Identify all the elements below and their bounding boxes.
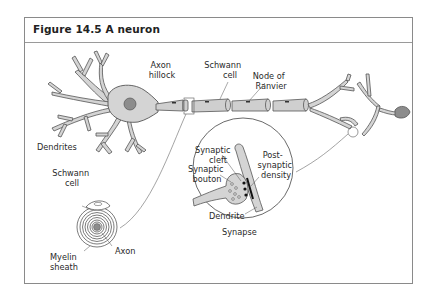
label-axon: Axon bbox=[115, 246, 135, 256]
label-synaptic-bouton: Synaptic bouton bbox=[188, 164, 226, 184]
neuron-diagram: Axon hillock Schwann cell Node of Ranvie… bbox=[0, 0, 431, 293]
axon-core bbox=[94, 224, 101, 231]
label-dendrite: Dendrite bbox=[209, 211, 245, 221]
label-synapse: Synapse bbox=[222, 227, 257, 237]
label-myelin-sheath: Myelin sheath bbox=[50, 252, 79, 272]
postsynaptic-cell bbox=[395, 106, 410, 118]
axon-segments bbox=[156, 99, 309, 112]
label-node-of-ranvier: Node of Ranvier bbox=[253, 71, 287, 91]
axon-terminals bbox=[308, 74, 397, 136]
label-schwann-cell: Schwann cell bbox=[204, 60, 244, 80]
nucleus bbox=[124, 98, 136, 110]
label-schwann-cell-inset: Schwann cell bbox=[52, 168, 92, 188]
label-axon-hillock: Axon hillock bbox=[149, 60, 176, 80]
label-dendrites: Dendrites bbox=[37, 142, 77, 152]
synapse-highlight-circle bbox=[348, 127, 358, 137]
